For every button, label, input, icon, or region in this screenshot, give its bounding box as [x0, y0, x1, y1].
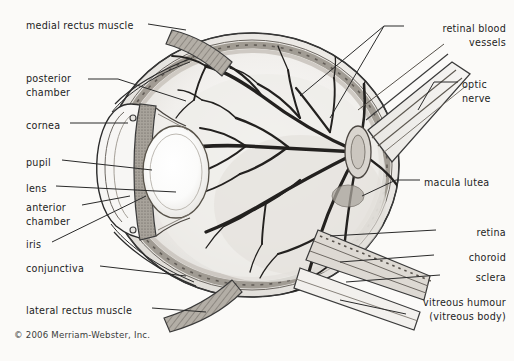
- optic-disc: [345, 126, 371, 178]
- label-choroid: choroid: [469, 251, 506, 265]
- label-medial-rectus-muscle: medial rectus muscle: [26, 19, 134, 33]
- eye-diagram-figure: medial rectus muscle posterior chamber c…: [0, 0, 514, 361]
- label-anterior-chamber-line2: chamber: [26, 215, 70, 229]
- label-lens: lens: [26, 182, 47, 196]
- label-optic-nerve: optic: [462, 78, 487, 92]
- macula-lutea-artwork: [332, 185, 364, 207]
- label-vitreous-humour: vitreous humour: [423, 296, 506, 310]
- label-cornea: cornea: [26, 119, 60, 133]
- leader-medial-rectus-muscle: [148, 24, 186, 30]
- label-pupil: pupil: [26, 156, 51, 170]
- label-optic-nerve-line2: nerve: [462, 92, 491, 106]
- label-conjunctiva: conjunctiva: [26, 262, 84, 276]
- copyright-credit: © 2006 Merriam-Webster, Inc.: [14, 330, 150, 340]
- label-retinal-blood-vessels: retinal blood: [442, 22, 506, 36]
- label-sclera: sclera: [476, 271, 506, 285]
- label-posterior-chamber-line2: chamber: [26, 86, 70, 100]
- label-macula-lutea: macula lutea: [424, 176, 489, 190]
- label-retina: retina: [476, 226, 506, 240]
- label-anterior-chamber: anterior: [26, 201, 66, 215]
- label-lateral-rectus-muscle: lateral rectus muscle: [26, 304, 132, 318]
- label-posterior-chamber: posterior: [26, 72, 71, 86]
- label-retinal-blood-vessels-line2: vessels: [469, 36, 506, 50]
- label-vitreous-body: (vitreous body): [429, 310, 506, 324]
- label-iris: iris: [26, 238, 41, 252]
